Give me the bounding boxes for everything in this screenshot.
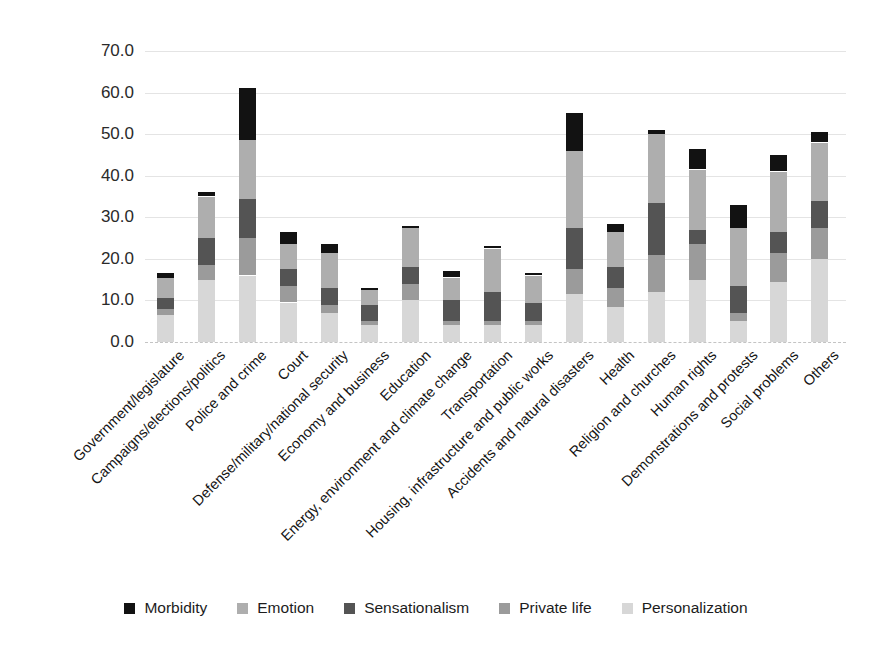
legend-swatch-icon — [344, 603, 355, 614]
y-axis-tick-label: 20.0 — [56, 250, 134, 268]
bar-segment-personalization — [689, 280, 706, 342]
legend-swatch-icon — [622, 603, 633, 614]
bar-segment-sensationalism — [607, 267, 624, 288]
bar-segment-morbidity — [607, 224, 624, 232]
bar-segment-sensationalism — [280, 269, 297, 286]
bar-segment-private-life — [157, 309, 174, 315]
x-axis-category-label: Transportation — [438, 347, 515, 424]
bar-segment-sensationalism — [566, 228, 583, 270]
y-axis-tick-label: 0.0 — [56, 333, 134, 351]
bar-segment-sensationalism — [484, 292, 501, 321]
bar-segment-sensationalism — [525, 303, 542, 322]
bar-segment-sensationalism — [157, 298, 174, 308]
bar-segment-sensationalism — [811, 201, 828, 228]
bar-segment-personalization — [484, 325, 501, 342]
x-axis-category-label: Court — [274, 347, 310, 383]
bar-segment-sensationalism — [361, 305, 378, 322]
bar-segment-sensationalism — [321, 288, 338, 305]
bar-segment-private-life — [443, 321, 460, 325]
bar-segment-private-life — [730, 313, 747, 321]
y-axis-tick-label: 30.0 — [56, 208, 134, 226]
bar-segment-sensationalism — [198, 238, 215, 265]
bar-segment-personalization — [730, 321, 747, 342]
y-axis-tick-label: 40.0 — [56, 167, 134, 185]
bar-segment-private-life — [361, 321, 378, 325]
stacked-bar-chart: 70.060.050.040.030.020.010.00.0Governmen… — [0, 0, 872, 649]
bar-segment-morbidity — [280, 232, 297, 245]
bar-segment-emotion — [239, 140, 256, 198]
bar-segment-personalization — [321, 313, 338, 342]
y-axis-tick-label: 50.0 — [56, 125, 134, 143]
y-axis-tick-label: 60.0 — [56, 84, 134, 102]
bar-segment-emotion — [484, 249, 501, 293]
bar-segment-sensationalism — [402, 267, 419, 284]
bar-segment-private-life — [321, 305, 338, 313]
bar-segment-private-life — [566, 269, 583, 294]
bar-segment-morbidity — [239, 88, 256, 140]
bar-segment-emotion — [566, 151, 583, 228]
bar-segment-sensationalism — [689, 230, 706, 245]
legend-label: Emotion — [257, 599, 314, 617]
bar-segment-emotion — [689, 170, 706, 230]
bar-segment-emotion — [157, 278, 174, 299]
legend-item-morbidity: Morbidity — [124, 599, 207, 617]
legend-label: Morbidity — [144, 599, 207, 617]
legend-label: Sensationalism — [364, 599, 469, 617]
bar-segment-sensationalism — [239, 199, 256, 239]
bar-segment-personalization — [607, 307, 624, 342]
legend-item-private-life: Private life — [499, 599, 591, 617]
bar-segment-emotion — [402, 228, 419, 268]
legend-item-personalization: Personalization — [622, 599, 748, 617]
bar-segment-private-life — [280, 286, 297, 303]
bar-segment-emotion — [321, 253, 338, 288]
bar-segment-personalization — [402, 300, 419, 342]
bar-segment-morbidity — [770, 155, 787, 172]
bar-segment-private-life — [484, 321, 501, 325]
bar-segment-sensationalism — [770, 232, 787, 253]
bar-segment-emotion — [811, 143, 828, 201]
bar-segment-personalization — [648, 292, 665, 342]
bar-segment-personalization — [811, 259, 828, 342]
bar-segment-personalization — [770, 282, 787, 342]
legend-label: Personalization — [642, 599, 748, 617]
bar-segment-morbidity — [321, 244, 338, 252]
bar-segment-private-life — [689, 244, 706, 279]
bar-segment-private-life — [607, 288, 624, 307]
bar-segment-private-life — [770, 253, 787, 282]
bar-segment-personalization — [239, 276, 256, 343]
legend-item-emotion: Emotion — [237, 599, 314, 617]
bar-segment-private-life — [811, 228, 828, 259]
bar-segment-morbidity — [730, 205, 747, 228]
bar-segment-morbidity — [484, 246, 501, 248]
legend-swatch-icon — [124, 603, 135, 614]
bar-segment-personalization — [361, 325, 378, 342]
bar-segment-emotion — [730, 228, 747, 286]
x-axis-category-label: Accidents and natural disasters — [443, 347, 597, 501]
bar-segment-personalization — [566, 294, 583, 342]
x-axis-category-label: Others — [800, 347, 842, 389]
bar-segment-emotion — [525, 276, 542, 303]
bar-segment-morbidity — [648, 130, 665, 134]
bar-segment-morbidity — [402, 226, 419, 228]
bar-segment-morbidity — [157, 273, 174, 277]
bar-segment-sensationalism — [648, 203, 665, 255]
bar-segment-private-life — [402, 284, 419, 301]
bar-segment-morbidity — [566, 113, 583, 150]
bar-segment-personalization — [525, 325, 542, 342]
bar-segment-private-life — [198, 265, 215, 280]
bar-segment-morbidity — [811, 132, 828, 142]
legend-swatch-icon — [499, 603, 510, 614]
bar-segment-emotion — [648, 134, 665, 203]
bar-segment-emotion — [770, 172, 787, 232]
bar-segment-emotion — [280, 244, 297, 269]
bar-segment-emotion — [198, 197, 215, 239]
bar-segment-morbidity — [198, 192, 215, 196]
bar-segment-sensationalism — [443, 300, 460, 321]
bar-segment-morbidity — [443, 271, 460, 277]
bar-segment-morbidity — [689, 149, 706, 170]
bar-segment-private-life — [525, 321, 542, 325]
legend-label: Private life — [519, 599, 591, 617]
bar-segment-sensationalism — [730, 286, 747, 313]
bar-segment-emotion — [443, 278, 460, 301]
bar-segment-private-life — [239, 238, 256, 275]
